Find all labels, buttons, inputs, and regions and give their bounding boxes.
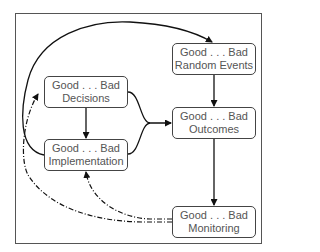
node-scale: Good . . . Bad <box>52 142 120 155</box>
node-decisions: Good . . . Bad Decisions <box>44 76 128 108</box>
node-label: Monitoring <box>188 222 239 235</box>
node-scale: Good . . . Bad <box>180 110 248 123</box>
node-scale: Good . . . Bad <box>180 46 248 59</box>
node-scale: Good . . . Bad <box>52 79 120 92</box>
edge-decisions-to-outcomes <box>128 92 171 123</box>
node-label: Decisions <box>62 92 110 105</box>
edge-implementation-to-outcomes <box>128 123 150 154</box>
edge-monitoring-to-implementation <box>86 172 172 219</box>
node-label: Random Events <box>175 59 253 72</box>
node-monitoring: Good . . . Bad Monitoring <box>172 206 256 238</box>
node-outcomes: Good . . . Bad Outcomes <box>172 107 256 139</box>
node-label: Outcomes <box>189 123 239 136</box>
node-label: Implementation <box>48 155 123 168</box>
node-implementation: Good . . . Bad Implementation <box>44 139 128 171</box>
node-random-events: Good . . . Bad Random Events <box>172 43 256 75</box>
node-scale: Good . . . Bad <box>180 209 248 222</box>
